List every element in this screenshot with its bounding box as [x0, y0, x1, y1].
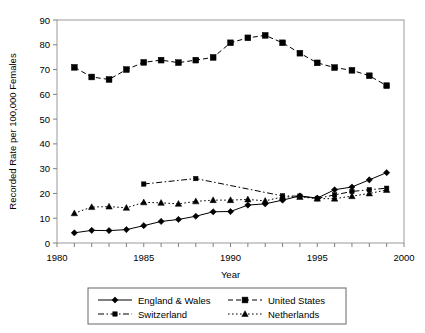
legend-label: Netherlands: [268, 309, 319, 320]
data-point-marker: [124, 67, 130, 73]
y-tick-label: 10: [39, 213, 50, 224]
data-point-marker: [193, 57, 199, 63]
data-point-marker: [242, 297, 248, 303]
y-tick-label: 30: [39, 163, 50, 174]
x-tick-label: 1985: [133, 252, 154, 263]
data-point-marker: [384, 83, 390, 89]
y-tick-label: 40: [39, 138, 50, 149]
y-axis-title: Recorded Rate per 100,000 Females: [7, 53, 18, 210]
data-point-marker: [113, 312, 117, 316]
data-point-marker: [366, 73, 372, 79]
y-tick-label: 50: [39, 114, 50, 125]
legend-label: United States: [268, 295, 325, 306]
legend-label: Switzerland: [138, 309, 187, 320]
x-axis-title: Year: [221, 269, 240, 280]
chart-legend: England & WalesUnited StatesSwitzerlandN…: [88, 288, 346, 324]
data-point-marker: [349, 67, 355, 73]
data-point-marker: [262, 32, 268, 38]
data-point-marker: [210, 55, 216, 61]
data-point-marker: [106, 77, 112, 83]
data-point-marker: [194, 176, 198, 180]
x-tick-label: 1995: [307, 252, 328, 263]
y-tick-label: 80: [39, 39, 50, 50]
y-tick-label: 60: [39, 89, 50, 100]
data-point-marker: [141, 59, 147, 65]
data-point-marker: [245, 35, 251, 41]
data-point-marker: [176, 60, 182, 66]
y-tick-label: 70: [39, 64, 50, 75]
legend-label: England & Wales: [138, 295, 211, 306]
y-tick-label: 20: [39, 188, 50, 199]
line-chart: 0102030405060708090 19801985199019952000…: [0, 0, 425, 333]
data-point-marker: [314, 60, 320, 66]
chart-figure: 0102030405060708090 19801985199019952000…: [0, 0, 425, 333]
y-tick-label: 0: [45, 238, 50, 249]
data-point-marker: [89, 74, 95, 80]
x-tick-label: 2000: [393, 252, 414, 263]
data-point-marker: [332, 65, 338, 71]
data-point-marker: [280, 40, 286, 46]
data-point-marker: [228, 40, 234, 46]
x-tick-label: 1990: [220, 252, 241, 263]
data-point-marker: [297, 50, 303, 56]
x-tick-label: 1980: [46, 252, 67, 263]
y-tick-label: 90: [39, 15, 50, 26]
data-point-marker: [142, 182, 146, 186]
y-axis-ticks: 0102030405060708090: [39, 15, 57, 249]
data-point-marker: [71, 64, 77, 70]
data-point-marker: [158, 57, 164, 63]
x-axis-ticks: 19801985199019952000: [46, 243, 414, 263]
